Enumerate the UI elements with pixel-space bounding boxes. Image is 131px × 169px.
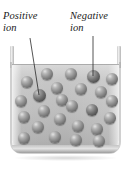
ion-sphere [54,113,66,125]
ion-sphere [18,111,30,123]
ion-sphere [106,73,118,85]
ion-sphere [95,86,107,98]
label-positive-ion: Positive ion [3,10,38,33]
ion-sphere [21,76,33,88]
ion-sphere [106,95,118,107]
ion-solution-figure: Positive ion Negative ion [0,0,131,169]
ion-sphere [15,95,27,107]
label-negative-ion: Negative ion [70,10,108,33]
ion-sphere [32,121,44,133]
ion-sphere [104,112,116,124]
ion-sphere [91,123,103,135]
ion-sphere [49,131,61,143]
ion-sphere [93,135,105,147]
container-base [12,145,119,153]
ion-sphere [87,70,100,83]
container-shadow [14,155,117,161]
ion-sphere [66,100,78,112]
ion-sphere [51,82,63,94]
ion-sphere [70,134,82,146]
ion-sphere [33,89,46,102]
